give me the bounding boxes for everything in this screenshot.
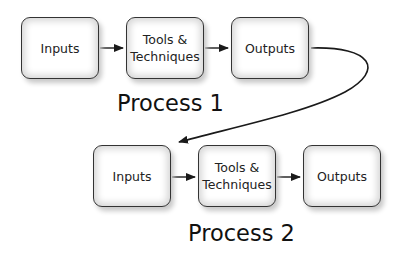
p1-tools-text: Tools & Techniques xyxy=(127,31,203,65)
p2-outputs-box: Outputs xyxy=(303,145,381,207)
p2-outputs-text: Outputs xyxy=(317,168,367,185)
p1-inputs-text: Inputs xyxy=(41,40,80,57)
p2-inputs-text: Inputs xyxy=(113,168,152,185)
p1-outputs-box: Outputs xyxy=(231,17,309,79)
p2-tools-box: Tools & Techniques xyxy=(198,145,276,207)
p2-tools-text: Tools & Techniques xyxy=(199,159,275,193)
p2-inputs-box: Inputs xyxy=(93,145,171,207)
process1-label: Process 1 xyxy=(117,90,224,116)
p1-outputs-text: Outputs xyxy=(245,40,295,57)
process2-label: Process 2 xyxy=(188,220,295,246)
p1-inputs-box: Inputs xyxy=(21,17,99,79)
p1-tools-box: Tools & Techniques xyxy=(126,17,204,79)
